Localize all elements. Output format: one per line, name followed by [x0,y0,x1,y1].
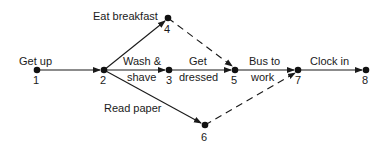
label-get-dressed-1: Get [189,55,207,67]
label-get-dressed-2: dressed [179,71,218,83]
activity-network-diagram: 1 2 3 4 5 6 7 8 Get up Eat breakfast Was… [0,0,383,147]
node-1 [34,67,41,74]
label-wash-shave-1: Wash & [123,55,162,67]
node-6-number: 6 [201,131,207,143]
label-wash-shave-2: shave [127,71,156,83]
node-7 [295,67,302,74]
node-8-number: 8 [362,74,368,86]
node-2 [101,67,108,74]
node-6 [202,122,209,129]
edge-6-7-dummy [205,73,295,125]
label-bus-to-work-1: Bus to [249,55,280,67]
node-1-number: 1 [33,74,39,86]
label-clock-in: Clock in [310,55,349,67]
node-5 [232,67,239,74]
node-2-number: 2 [100,74,106,86]
node-5-number: 5 [231,74,237,86]
label-eat-breakfast: Eat breakfast [93,10,158,22]
node-3-number: 3 [166,74,172,86]
node-3 [166,67,173,74]
node-4 [165,15,172,22]
node-4-number: 4 [164,23,170,35]
label-get-up: Get up [19,55,52,67]
node-7-number: 7 [295,74,301,86]
label-read-paper: Read paper [104,102,162,114]
node-8 [363,67,370,74]
label-bus-to-work-2: work [250,71,275,83]
